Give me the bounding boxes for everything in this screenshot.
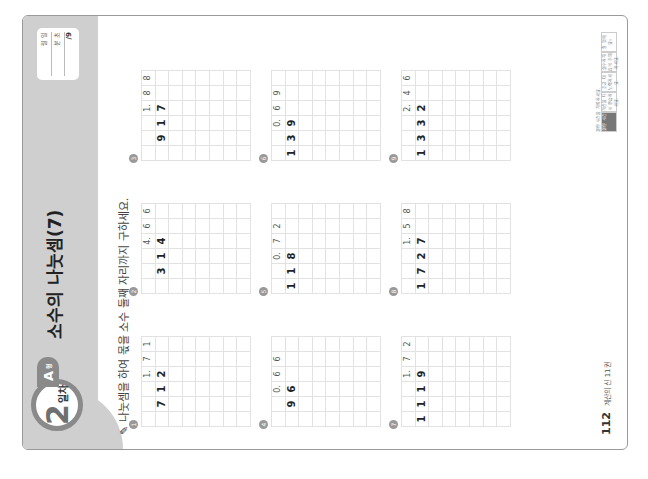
grid-cell — [339, 367, 353, 382]
division-grid: 0.6696 — [271, 336, 381, 427]
grid-cell — [223, 337, 237, 352]
grid-cell — [456, 234, 470, 249]
grid-cell — [367, 264, 381, 279]
grid-cell — [367, 71, 381, 86]
grid-cell — [339, 116, 353, 131]
grid-cell — [237, 204, 251, 219]
grid-cell — [209, 279, 223, 294]
grid-cell — [442, 101, 456, 116]
grid-cell — [442, 382, 456, 397]
grid-cell — [353, 337, 367, 352]
grid-cell — [367, 337, 381, 352]
grid-cell — [237, 264, 251, 279]
grid-cell — [237, 367, 251, 382]
grid-cell — [209, 352, 223, 367]
grid-cell — [312, 264, 326, 279]
grid-cell — [182, 234, 196, 249]
grid-cell — [142, 249, 156, 264]
instruction-text: 나눗셈을 하여 몫을 소수 둘째 자리까지 구하세요. — [118, 198, 131, 422]
grid-cell: 6 — [285, 382, 299, 397]
division-grid: 1.581727 — [401, 203, 511, 294]
grid-cell — [299, 234, 313, 249]
grid-cell — [169, 86, 183, 101]
grid-cell — [326, 219, 340, 234]
grid-cell — [182, 71, 196, 86]
grid-cell — [209, 86, 223, 101]
grid-cell: 1 — [142, 337, 156, 352]
grid-cell: 6 — [272, 352, 286, 367]
grid-cell — [339, 71, 353, 86]
grid-cell: 0. — [272, 249, 286, 264]
grid-cell — [497, 71, 511, 86]
grid-cell — [442, 146, 456, 161]
grid-cell — [469, 131, 483, 146]
grid-cell — [469, 146, 483, 161]
grid-cell — [429, 352, 443, 367]
grid-cell: 8 — [402, 204, 416, 219]
grid-cell — [196, 249, 210, 264]
grid-cell — [456, 131, 470, 146]
grid-cell: 2 — [415, 249, 429, 264]
grid-cell: 7 — [142, 352, 156, 367]
grid-cell — [367, 234, 381, 249]
grid-cell — [353, 131, 367, 146]
worksheet-page: 2 일차 A 형 소수의 나눗셈(7) 월 일 분 초 /9 ✎ 나눗셈을 하여… — [22, 15, 628, 450]
grid-cell — [182, 204, 196, 219]
grid-cell — [237, 146, 251, 161]
grid-cell — [353, 101, 367, 116]
grid-cell — [429, 101, 443, 116]
grid-cell — [169, 204, 183, 219]
grid-cell — [367, 412, 381, 427]
grid-cell — [483, 412, 497, 427]
grid-cell: 7 — [155, 397, 169, 412]
grid-cell — [196, 131, 210, 146]
grid-cell — [169, 367, 183, 382]
grid-cell — [299, 397, 313, 412]
grid-cell: 1. — [402, 367, 416, 382]
grid-cell — [272, 412, 286, 427]
grid-cell — [367, 101, 381, 116]
grid-cell — [339, 204, 353, 219]
problem-number: 7 — [389, 420, 398, 429]
grid-cell — [237, 412, 251, 427]
grid-cell — [312, 249, 326, 264]
grid-cell — [442, 352, 456, 367]
grid-cell — [339, 412, 353, 427]
grid-cell — [299, 86, 313, 101]
grid-cell — [367, 204, 381, 219]
grid-cell — [155, 71, 169, 86]
grid-cell — [339, 397, 353, 412]
grid-cell — [456, 146, 470, 161]
grid-cell — [196, 367, 210, 382]
grid-cell — [469, 397, 483, 412]
day-number: 2 — [40, 404, 75, 425]
grid-cell — [469, 116, 483, 131]
grid-cell — [326, 146, 340, 161]
grid-cell — [353, 116, 367, 131]
grid-cell — [285, 86, 299, 101]
grid-cell — [483, 101, 497, 116]
grid-cell — [326, 367, 340, 382]
grid-cell — [223, 412, 237, 427]
grid-cell — [456, 382, 470, 397]
grid-cell: 1 — [155, 382, 169, 397]
grid-cell: 2 — [272, 219, 286, 234]
grid-cell — [285, 352, 299, 367]
grid-cell — [237, 101, 251, 116]
grid-cell — [326, 352, 340, 367]
legend-cell: 걸린 시간 — [601, 112, 617, 132]
grid-cell — [353, 367, 367, 382]
grid-cell: 1 — [285, 279, 299, 294]
grid-cell — [285, 337, 299, 352]
grid-cell — [353, 219, 367, 234]
page-title: 소수의 나눗셈(7) — [41, 210, 66, 339]
grid-cell: 3 — [155, 264, 169, 279]
grid-cell — [209, 204, 223, 219]
grid-cell — [285, 204, 299, 219]
grid-cell — [182, 101, 196, 116]
grid-cell — [497, 412, 511, 427]
grid-cell — [142, 146, 156, 161]
grid-cell — [456, 219, 470, 234]
grid-cell — [415, 86, 429, 101]
grid-cell — [196, 234, 210, 249]
